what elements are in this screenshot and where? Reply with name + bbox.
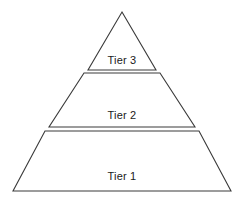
tier-2-group[interactable]: Tier 2 xyxy=(49,73,195,127)
tier-1-label: Tier 1 xyxy=(108,170,137,182)
tier-1-shape[interactable] xyxy=(13,131,231,191)
tier-1-group[interactable]: Tier 1 xyxy=(13,131,231,191)
pyramid-diagram: Tier 3 Tier 2 Tier 1 xyxy=(0,0,246,202)
pyramid-svg: Tier 3 Tier 2 Tier 1 xyxy=(0,0,246,202)
tier-2-label: Tier 2 xyxy=(108,109,137,121)
tier-3-group[interactable]: Tier 3 xyxy=(88,12,156,70)
tier-3-label: Tier 3 xyxy=(108,54,137,66)
